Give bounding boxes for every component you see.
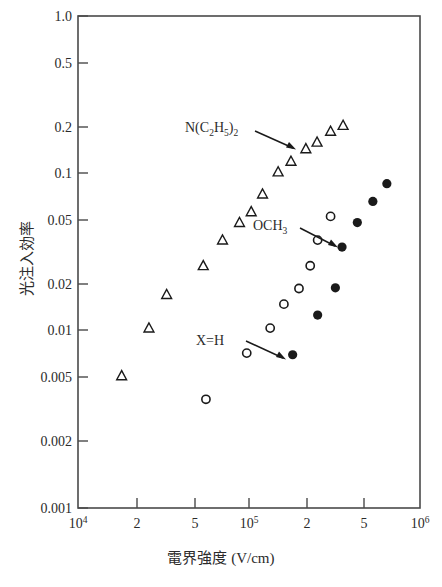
marker-open-triangle (162, 289, 172, 298)
marker-open-circle (306, 262, 314, 270)
y-axis-title: 光注入効率 (19, 221, 35, 296)
scatter-plot-svg: 1.0 0.5 0.2 0.1 0.05 0.02 0.01 0.005 0.0… (0, 0, 442, 587)
marker-open-triangle (258, 189, 268, 198)
marker-filled-circle (382, 179, 391, 188)
x-label-1e5: 105 (240, 515, 259, 531)
x-label-2e5: 2 (304, 516, 311, 531)
marker-open-triangle (273, 167, 283, 176)
y-label-0p05: 0.05 (48, 213, 73, 228)
marker-open-triangle (301, 144, 311, 153)
x-label-1e4: 104 (69, 515, 88, 531)
series-3 (288, 179, 391, 359)
x-tick-labels: 104 2 5 105 2 5 106 (69, 515, 430, 531)
figure-container: 1.0 0.5 0.2 0.1 0.05 0.02 0.01 0.005 0.0… (0, 0, 442, 587)
marker-filled-circle (331, 283, 340, 292)
plot-frame (78, 16, 420, 508)
marker-filled-circle (353, 218, 362, 227)
marker-open-triangle (312, 137, 322, 146)
arrowhead-xh (276, 352, 286, 360)
x-label-5e5: 5 (361, 516, 368, 531)
x-label-2e4: 2 (134, 516, 141, 531)
data-markers-group (117, 120, 392, 403)
marker-open-triangle (198, 261, 208, 270)
annotation-xh: X=H (196, 333, 286, 360)
marker-filled-circle (337, 242, 346, 251)
annotation-n-diethylamino: N(C2H5)2 (185, 120, 296, 150)
marker-open-circle (202, 395, 210, 403)
y-label-0p02: 0.02 (48, 277, 73, 292)
y-tick-marks (78, 16, 88, 508)
y-label-0p1: 0.1 (55, 166, 73, 181)
y-label-0p5: 0.5 (55, 56, 73, 71)
marker-filled-circle (313, 311, 322, 320)
annotation-label-n-diethylamino: N(C2H5)2 (185, 120, 238, 138)
x-label-1e6: 106 (411, 515, 430, 531)
marker-open-triangle (117, 371, 127, 380)
marker-open-circle (266, 324, 274, 332)
arrowhead-och3 (328, 240, 338, 248)
series-1 (117, 120, 348, 379)
arrowhead-n-diethylamino (286, 142, 296, 150)
marker-open-triangle (235, 217, 245, 226)
marker-open-triangle (218, 235, 228, 244)
marker-open-circle (243, 349, 251, 357)
y-label-0p001: 0.001 (41, 501, 73, 516)
marker-open-triangle (246, 207, 256, 216)
annotation-label-och3: OCH3 (253, 218, 288, 236)
x-axis-title: 電界強度 (V/cm) (167, 550, 274, 567)
y-label-0p2: 0.2 (55, 120, 73, 135)
marker-open-circle (280, 300, 288, 308)
y-label-1p0: 1.0 (55, 9, 73, 24)
x-tick-marks (137, 498, 364, 508)
marker-open-circle (295, 284, 303, 292)
y-tick-labels: 1.0 0.5 0.2 0.1 0.05 0.02 0.01 0.005 0.0… (41, 9, 73, 516)
y-label-0p005: 0.005 (41, 370, 73, 385)
marker-filled-circle (368, 197, 377, 206)
marker-filled-circle (288, 350, 297, 359)
y-label-0p002: 0.002 (41, 434, 73, 449)
y-label-0p01: 0.01 (48, 323, 73, 338)
annotation-label-xh: X=H (196, 333, 224, 348)
marker-open-circle (326, 212, 334, 220)
marker-open-triangle (286, 156, 296, 165)
x-label-5e4: 5 (192, 516, 199, 531)
annotation-och3: OCH3 (253, 218, 338, 248)
marker-open-triangle (326, 126, 336, 135)
marker-open-triangle (338, 120, 348, 129)
marker-open-triangle (144, 323, 154, 332)
